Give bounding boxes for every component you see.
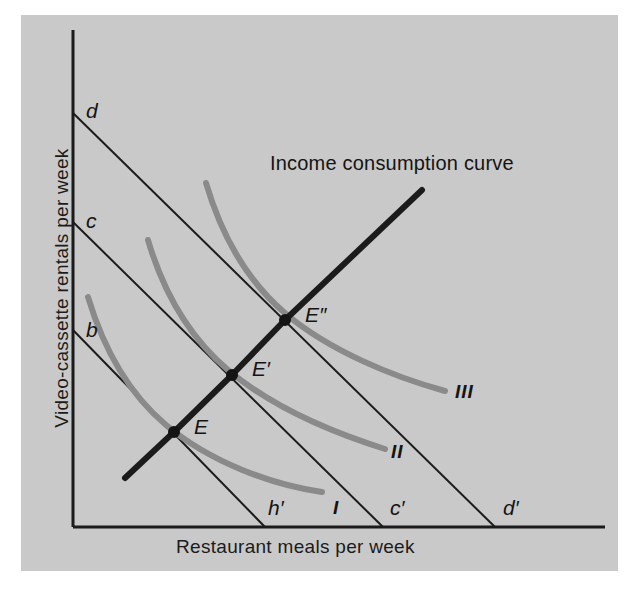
y-axis-title: Video-cassette rentals per week bbox=[51, 123, 73, 453]
equilibrium-point-E-double-prime bbox=[279, 314, 291, 326]
indifference-label-II: II bbox=[391, 441, 404, 463]
indifference-label-III: III bbox=[455, 381, 474, 403]
equilibrium-label-E: E bbox=[194, 415, 208, 439]
budget-label-h-prime: h′ bbox=[268, 496, 284, 520]
budget-label-c: c bbox=[86, 209, 97, 233]
indifference-label-I: I bbox=[333, 497, 339, 519]
budget-label-d: d bbox=[86, 99, 98, 123]
budget-label-b: b bbox=[86, 318, 98, 342]
income-consumption-curve-figure: Restaurant meals per week Video-cassette… bbox=[0, 0, 638, 589]
equilibrium-point-E bbox=[168, 426, 180, 438]
plot-canvas bbox=[0, 0, 638, 589]
income-consumption-curve-label: Income consumption curve bbox=[270, 152, 514, 175]
equilibrium-label-E-prime: E′ bbox=[252, 357, 270, 381]
equilibrium-label-E-double-prime: E″ bbox=[305, 303, 326, 327]
budget-label-c-prime: c′ bbox=[390, 496, 404, 520]
x-axis-title: Restaurant meals per week bbox=[176, 536, 415, 558]
indifference-curve-II bbox=[148, 240, 385, 449]
indifference-curve-I bbox=[88, 297, 322, 492]
equilibrium-point-E-prime bbox=[226, 369, 238, 381]
budget-label-d-prime: d′ bbox=[503, 496, 519, 520]
